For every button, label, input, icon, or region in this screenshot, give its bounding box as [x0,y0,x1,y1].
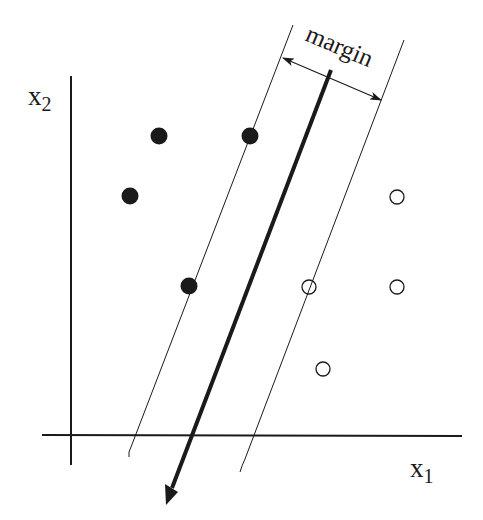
x2-label-base: x [28,81,42,111]
x1-axis-label: x1 [410,453,434,487]
class-filled-points [122,128,259,295]
filled-point-support-vector [181,278,198,295]
x2-axis-label: x2 [28,81,52,115]
x1-label-base: x [410,453,424,483]
open-point-support-vector [302,280,316,294]
right-margin-line [240,40,404,472]
open-point [316,362,330,376]
x-axis [42,435,462,436]
class-open-points [302,190,404,376]
x2-label-subscript: 2 [42,93,52,115]
left-margin-line [129,25,293,457]
svm-margin-diagram: margin x2 x1 [0,0,483,520]
diagram-svg: margin x2 x1 [0,0,483,520]
open-point [390,280,404,294]
margin-label: margin [302,20,378,73]
filled-point [151,128,168,145]
open-point [390,190,404,204]
filled-point [122,188,139,205]
x1-label-subscript: 1 [424,465,434,487]
filled-point-support-vector [242,128,259,145]
